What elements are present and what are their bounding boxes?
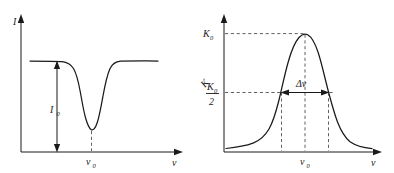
absorption-dip-curve	[30, 61, 158, 130]
panel-absorption-coefficient: K K 0 K 0 2 Δν ν 0 ν	[197, 0, 394, 173]
k0-half-denominator: 2	[209, 96, 214, 107]
panel-transmitted-intensity: I I 0 ν 0 ν	[0, 0, 197, 173]
x-tick-label-nu0: ν	[86, 156, 91, 167]
y-axis-arrowhead	[18, 14, 24, 23]
x-tick-label-nu0: ν	[300, 156, 305, 167]
k0-label-subscript: 0	[210, 34, 214, 41]
x-tick-label-nu0-subscript: 0	[307, 162, 311, 169]
x-axis-label: ν	[172, 157, 177, 168]
depth-label: I	[49, 104, 54, 115]
x-tick-label-nu0-subscript: 0	[93, 162, 97, 169]
y-axis-arrowhead	[221, 14, 227, 23]
x-axis-arrowhead	[373, 149, 382, 155]
x-axis-label: ν	[371, 157, 376, 168]
x-axis-arrowhead	[174, 149, 183, 155]
depth-arrowhead-down	[54, 144, 60, 153]
k0-half-numerator-subscript: 0	[214, 87, 218, 94]
spectral-line-figure: I I 0 ν 0 ν	[0, 0, 394, 173]
fwhm-label: Δν	[295, 78, 307, 89]
transmitted-intensity-plot: I I 0 ν 0 ν	[0, 0, 197, 173]
absorption-peak-curve	[226, 34, 372, 148]
depth-label-subscript: 0	[57, 110, 61, 117]
y-axis-label: I	[12, 16, 17, 27]
absorption-coefficient-plot: K K 0 K 0 2 Δν ν 0 ν	[197, 0, 394, 173]
